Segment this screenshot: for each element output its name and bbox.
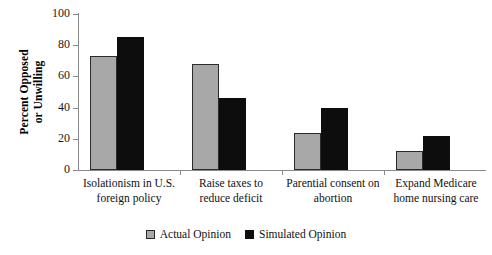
x-category-label-0: Isolationism in U.S. foreign policy <box>78 176 180 205</box>
y-tick-label-5: 100 <box>52 6 70 20</box>
bar-group-1 <box>180 14 282 170</box>
bar-group-0 <box>78 14 180 170</box>
bar-simulated-0 <box>117 37 144 170</box>
x-category-label-3-line1: Expand Medicare <box>384 176 488 191</box>
bar-actual-0 <box>90 56 117 170</box>
x-category-label-1-line2: reduce deficit <box>180 191 282 206</box>
bar-group-2 <box>282 14 384 170</box>
bar-simulated-1 <box>219 98 246 170</box>
bar-actual-2 <box>294 133 321 170</box>
x-category-label-3-line2: home nursing care <box>384 191 488 206</box>
bar-actual-3 <box>396 151 423 170</box>
y-tick-label-0: 0 <box>64 162 70 176</box>
bar-simulated-3 <box>423 136 450 170</box>
bar-group-3 <box>384 14 486 170</box>
bar-actual-1 <box>192 64 219 170</box>
legend-label-simulated: Simulated Opinion <box>259 227 346 241</box>
x-category-label-0-line1: Isolationism in U.S. <box>78 176 180 191</box>
y-axis-title-line2: or Unwilling <box>31 49 45 134</box>
x-separator-3 <box>384 170 385 175</box>
x-category-label-1: Raise taxes to reduce deficit <box>180 176 282 205</box>
bar-simulated-2 <box>321 108 348 170</box>
legend-swatch-actual-icon <box>146 230 155 239</box>
x-category-label-2: Parential consent on abortion <box>282 176 384 205</box>
x-category-label-0-line2: foreign policy <box>78 191 180 206</box>
legend-item-actual: Actual Opinion <box>146 227 231 241</box>
y-tick-label-4: 80 <box>58 37 70 51</box>
y-axis-title-line1: Percent Opposed <box>17 49 31 134</box>
legend-swatch-simulated-icon <box>245 230 254 239</box>
y-tick-label-1: 20 <box>58 131 70 145</box>
y-axis-title: Percent Opposed or Unwilling <box>2 8 60 176</box>
legend-item-simulated: Simulated Opinion <box>245 227 346 241</box>
x-category-label-2-line2: abortion <box>282 191 384 206</box>
x-separator-1 <box>180 170 181 175</box>
legend-label-actual: Actual Opinion <box>160 227 231 241</box>
y-tick-label-3: 60 <box>58 68 70 82</box>
plot-area: 0 20 40 60 80 100 <box>78 14 478 170</box>
x-category-label-3: Expand Medicare home nursing care <box>384 176 488 205</box>
chart-legend: Actual Opinion Simulated Opinion <box>0 227 492 241</box>
y-tick-label-2: 40 <box>58 100 70 114</box>
x-category-label-1-line1: Raise taxes to <box>180 176 282 191</box>
x-category-label-2-line1: Parential consent on <box>282 176 384 191</box>
x-separator-2 <box>282 170 283 175</box>
bar-chart-figure: Percent Opposed or Unwilling 0 20 40 60 … <box>0 0 492 255</box>
